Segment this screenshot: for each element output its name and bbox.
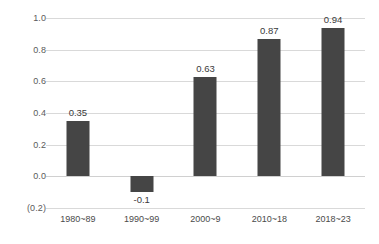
bar-group: 0.87	[237, 18, 301, 208]
y-axis-tick-label: 0.0	[6, 172, 46, 181]
y-axis-tick-label: 0.6	[6, 77, 46, 86]
bar[interactable]	[66, 121, 89, 176]
bar-chart: 1.00.80.60.40.20.0(0.2) 0.35-0.10.630.87…	[0, 0, 379, 244]
x-axis-tick-label: 1990~99	[110, 215, 174, 224]
y-axis-tick-label: 0.8	[6, 45, 46, 54]
bar-value-label: 0.94	[324, 15, 343, 25]
y-axis-tick-label: 0.4	[6, 109, 46, 118]
bar[interactable]	[194, 77, 217, 177]
x-axis-tick-label: 2018~23	[301, 215, 365, 224]
x-axis-tick-label: 2010~18	[237, 215, 301, 224]
bar-group: 0.35	[46, 18, 110, 208]
bar-value-label: 0.35	[69, 108, 88, 118]
x-axis-tick-label: 2000~9	[174, 215, 238, 224]
y-axis-tick-label: (0.2)	[6, 204, 46, 213]
bar[interactable]	[130, 176, 153, 192]
x-axis-tick-label: 1980~89	[46, 215, 110, 224]
bar[interactable]	[322, 28, 345, 177]
bar-value-label: -0.1	[134, 195, 150, 205]
plot-area: 0.35-0.10.630.870.94	[46, 18, 365, 208]
bar-value-label: 0.87	[260, 26, 279, 36]
bar-group: -0.1	[110, 18, 174, 208]
bar-group: 0.94	[301, 18, 365, 208]
bar[interactable]	[258, 39, 281, 177]
y-axis-tick-label: 1.0	[6, 14, 46, 23]
y-axis-tick-label: 0.2	[6, 140, 46, 149]
bar-value-label: 0.63	[196, 64, 215, 74]
bar-group: 0.63	[174, 18, 238, 208]
gridline	[46, 208, 365, 209]
